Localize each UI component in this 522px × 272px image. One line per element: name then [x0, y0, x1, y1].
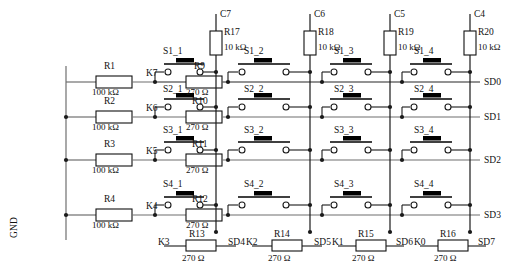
net-label-K0: K0: [414, 238, 426, 248]
resistor-ref-R12: R12: [192, 195, 208, 205]
switch-S3_2[interactable]: [226, 136, 312, 162]
switch-label-S2_1: S2_1: [163, 85, 183, 95]
bottom-resistor-R15: [338, 240, 404, 251]
resistor-R18: [304, 31, 316, 55]
resistor-ref-R2: R2: [104, 97, 115, 107]
bottom-resistor-R16: [420, 240, 486, 251]
net-label-SD3: SD3: [484, 211, 501, 221]
resistor-value-R14: 270 Ω: [268, 254, 290, 263]
resistor-ref-R20: R20: [478, 28, 494, 38]
net-label-K6: K6: [146, 104, 158, 114]
resistor-ref-R19: R19: [398, 28, 414, 38]
switch-label-S3_2: S3_2: [244, 126, 264, 136]
resistor-ref-R4: R4: [104, 195, 115, 205]
switch-S1_3[interactable]: [320, 58, 392, 84]
switch-S2_3[interactable]: [320, 93, 392, 119]
switch-S4_3[interactable]: [320, 191, 392, 217]
net-label-K4: K4: [146, 202, 158, 212]
resistor-ref-R10: R10: [192, 97, 208, 107]
switch-S2_2[interactable]: [226, 93, 312, 119]
resistor-ref-R13: R13: [189, 230, 205, 240]
switch-label-S3_3: S3_3: [334, 126, 354, 136]
net-label-SD1: SD1: [484, 113, 501, 123]
resistor-value-R16: 270 Ω: [434, 254, 456, 263]
column-line-C4: [464, 14, 476, 232]
net-label-K1: K1: [332, 238, 344, 248]
switch-S3_3[interactable]: [320, 136, 392, 162]
switch-label-S4_1: S4_1: [163, 180, 183, 190]
column-line-C6: [304, 14, 316, 232]
switch-label-S4_2: S4_2: [244, 180, 264, 190]
resistor-R20: [464, 31, 476, 55]
column-line-C5: [384, 14, 396, 232]
switch-S4_4[interactable]: [400, 191, 472, 217]
switch-label-S2_3: S2_3: [334, 85, 354, 95]
resistor-ref-R3: R3: [104, 140, 115, 150]
switch-label-S1_3: S1_3: [334, 47, 354, 57]
switch-label-S2_4: S2_4: [414, 85, 434, 95]
switch-label-S4_3: S4_3: [334, 180, 354, 190]
resistor-R19: [384, 31, 396, 55]
switch-label-S4_4: S4_4: [414, 180, 434, 190]
resistor-value-R20: 10 kΩ: [478, 43, 500, 52]
resistor-ref-R1: R1: [104, 62, 115, 72]
switch-label-S2_2: S2_2: [244, 85, 264, 95]
circuit-schematic: GND C7 R17 10 kΩ C6 R18 10 kΩ C5 R19 10 …: [0, 0, 522, 272]
net-label-C4: C4: [474, 10, 485, 20]
resistor-value-R11: 270 Ω: [186, 166, 208, 175]
net-label-SD6: SD6: [396, 238, 413, 248]
net-label-K3: K3: [158, 238, 170, 248]
switch-label-S3_4: S3_4: [414, 126, 434, 136]
switch-S1_2[interactable]: [226, 58, 312, 84]
resistor-value-R15: 270 Ω: [352, 254, 374, 263]
resistor-value-R3: 100 kΩ: [92, 166, 119, 175]
resistor-R17: [210, 31, 222, 55]
switch-label-S1_4: S1_4: [414, 47, 434, 57]
net-label-K5: K5: [146, 147, 158, 157]
switch-S2_4[interactable]: [400, 93, 472, 119]
resistor-ref-R18: R18: [318, 28, 334, 38]
net-label-K2: K2: [246, 238, 258, 248]
net-label-K7: K7: [146, 69, 158, 79]
net-label-SD4: SD4: [228, 238, 245, 248]
resistor-ref-R11: R11: [192, 140, 207, 150]
switch-S4_2[interactable]: [226, 191, 312, 217]
resistor-ref-R15: R15: [358, 230, 374, 240]
net-label-SD5: SD5: [314, 238, 331, 248]
ground-label: GND: [10, 217, 20, 238]
resistor-ref-R14: R14: [274, 230, 290, 240]
switch-label-S1_1: S1_1: [163, 47, 183, 57]
net-label-C5: C5: [394, 10, 405, 20]
net-label-SD2: SD2: [484, 156, 501, 166]
resistor-ref-R9: R9: [194, 62, 205, 72]
bottom-resistor-R13: [164, 240, 236, 251]
switch-S3_4[interactable]: [400, 136, 472, 162]
resistor-value-R13: 270 Ω: [182, 254, 204, 263]
net-label-C6: C6: [314, 10, 325, 20]
net-label-SD7: SD7: [478, 238, 495, 248]
net-label-SD0: SD0: [484, 78, 501, 88]
resistor-value-R4: 100 kΩ: [92, 221, 119, 230]
net-label-C7: C7: [220, 10, 231, 20]
resistor-value-R2: 100 kΩ: [92, 123, 119, 132]
switch-label-S3_1: S3_1: [163, 126, 183, 136]
switch-label-S1_2: S1_2: [244, 47, 264, 57]
resistor-ref-R16: R16: [440, 230, 456, 240]
switch-S1_4[interactable]: [400, 58, 472, 84]
resistor-ref-R17: R17: [224, 28, 240, 38]
resistor-value-R10: 270 Ω: [186, 123, 208, 132]
bottom-resistor-R14: [252, 240, 322, 251]
